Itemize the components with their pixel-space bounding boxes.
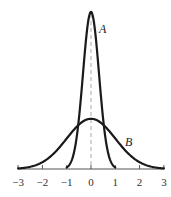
curve-b-label: B [125,135,133,149]
distribution-chart: −3−2−10123 A B [0,0,171,197]
x-tick-label: −2 [37,176,49,188]
x-tick-label: −3 [12,176,24,188]
x-tick-label: −1 [61,176,73,188]
x-tick-label: 2 [137,176,143,188]
x-tick-label: 0 [88,176,94,188]
x-tick-label: 3 [161,176,167,188]
curve-a-label: A [98,22,107,36]
x-axis-ticks: −3−2−10123 [12,165,167,188]
x-tick-label: 1 [113,176,119,188]
